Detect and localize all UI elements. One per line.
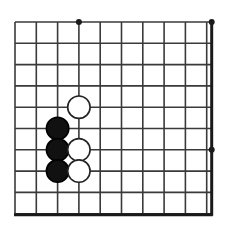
stone-white-d8[interactable] bbox=[68, 160, 90, 182]
board-background bbox=[0, 0, 227, 232]
stone-white-d5[interactable] bbox=[68, 96, 90, 118]
star-point-right bbox=[209, 147, 215, 153]
star-point-top-left bbox=[76, 19, 82, 25]
go-board[interactable] bbox=[0, 0, 227, 232]
stone-black-c6[interactable] bbox=[46, 117, 68, 139]
stone-black-c7[interactable] bbox=[46, 139, 68, 161]
stone-black-c8[interactable] bbox=[46, 160, 68, 182]
stone-white-d7[interactable] bbox=[68, 139, 90, 161]
star-point-top-right bbox=[209, 19, 215, 25]
go-board-container bbox=[0, 0, 227, 232]
